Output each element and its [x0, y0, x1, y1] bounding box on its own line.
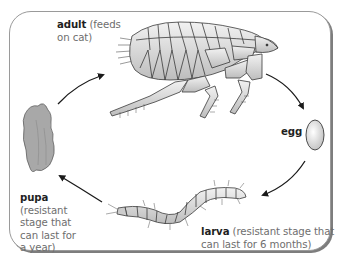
- label-larva: larva (resistant stage that can last for…: [201, 226, 336, 251]
- arrow-pupa-to-adult-icon: [58, 75, 103, 104]
- stage-name-larva: larva: [201, 226, 229, 237]
- label-adult: adult (feeds on cat): [57, 19, 127, 44]
- egg-icon: [306, 120, 324, 150]
- pupa-icon: [23, 104, 54, 172]
- arrow-egg-to-larva-icon: [263, 161, 305, 195]
- larva-icon: [106, 180, 246, 230]
- label-egg: egg: [281, 126, 302, 139]
- label-pupa: pupa (resistant stage that can last for …: [20, 192, 82, 255]
- arrow-adult-to-egg-icon: [266, 74, 303, 108]
- stage-name-egg: egg: [281, 126, 302, 137]
- stage-name-adult: adult: [57, 19, 86, 30]
- adult-flea-icon: [110, 22, 278, 118]
- stage-name-pupa: pupa: [20, 192, 48, 203]
- stage-note-pupa: (resistant stage that can last for a yea…: [20, 205, 76, 254]
